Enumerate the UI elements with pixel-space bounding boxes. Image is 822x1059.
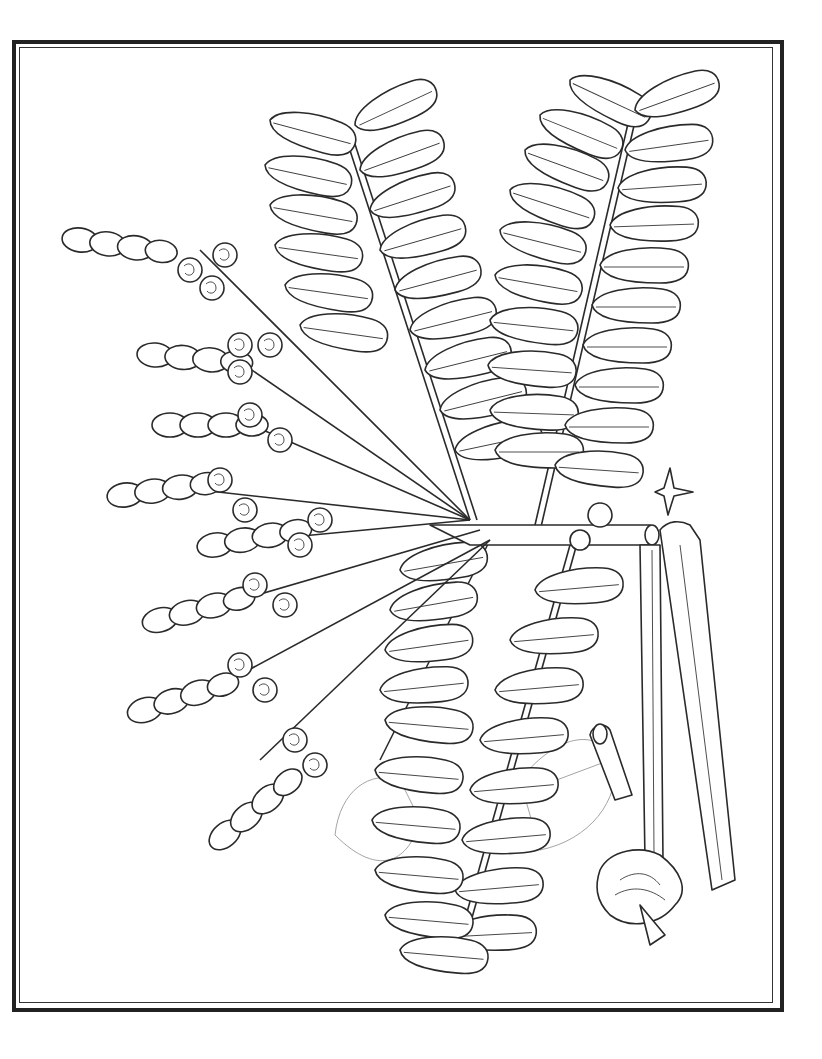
seed-pods — [640, 522, 735, 890]
tubular-flower-detail — [590, 724, 632, 800]
star-bract — [655, 468, 693, 515]
upper-right-compound-leaf — [487, 64, 724, 527]
coloring-page — [0, 0, 822, 1059]
open-flower-detail — [597, 850, 682, 945]
botanical-illustration — [0, 0, 822, 1059]
